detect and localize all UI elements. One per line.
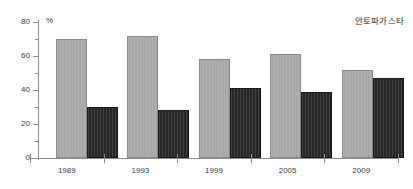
x-axis-tick-label-1993: 1993: [103, 166, 177, 175]
x-axis-line: [30, 158, 398, 159]
bar-light-series-1993[interactable]: [127, 36, 158, 158]
x-axis-separator: [398, 154, 399, 163]
x-axis-separator: [177, 154, 178, 163]
y-axis-tick: [33, 158, 39, 159]
bar-light-series-2009[interactable]: [342, 70, 373, 158]
plot-area: [38, 22, 395, 158]
x-axis-tick-label-1989: 1989: [30, 166, 104, 175]
x-axis-tick-label-2005: 2005: [251, 166, 325, 175]
y-axis-tick-label: 40: [0, 86, 30, 94]
y-axis-tick-label: 80: [0, 18, 30, 26]
y-axis-tick-label: 20: [0, 120, 30, 128]
bar-dark-series-1999[interactable]: [230, 88, 261, 158]
bar-dark-series-2009[interactable]: [373, 78, 404, 158]
x-axis-tick-label-2009: 2009: [324, 166, 398, 175]
x-axis-separator: [251, 154, 252, 163]
bar-light-series-1989[interactable]: [56, 39, 87, 158]
bar-dark-series-2005[interactable]: [301, 92, 332, 158]
x-axis-separator: [324, 154, 325, 163]
x-axis-separator: [30, 154, 31, 163]
bar-dark-series-1993[interactable]: [158, 110, 189, 158]
bar-chart: % 안토파가스타 020406080 19891993199920052009: [0, 0, 413, 189]
y-axis-tick-label: 60: [0, 52, 30, 60]
bar-dark-series-1989[interactable]: [87, 107, 118, 158]
bar-light-series-2005[interactable]: [270, 54, 301, 158]
x-axis-separator: [104, 154, 105, 163]
y-axis-tick-label: 0: [0, 154, 30, 162]
x-axis-tick-label-1999: 1999: [177, 166, 251, 175]
bar-light-series-1999[interactable]: [199, 59, 230, 158]
